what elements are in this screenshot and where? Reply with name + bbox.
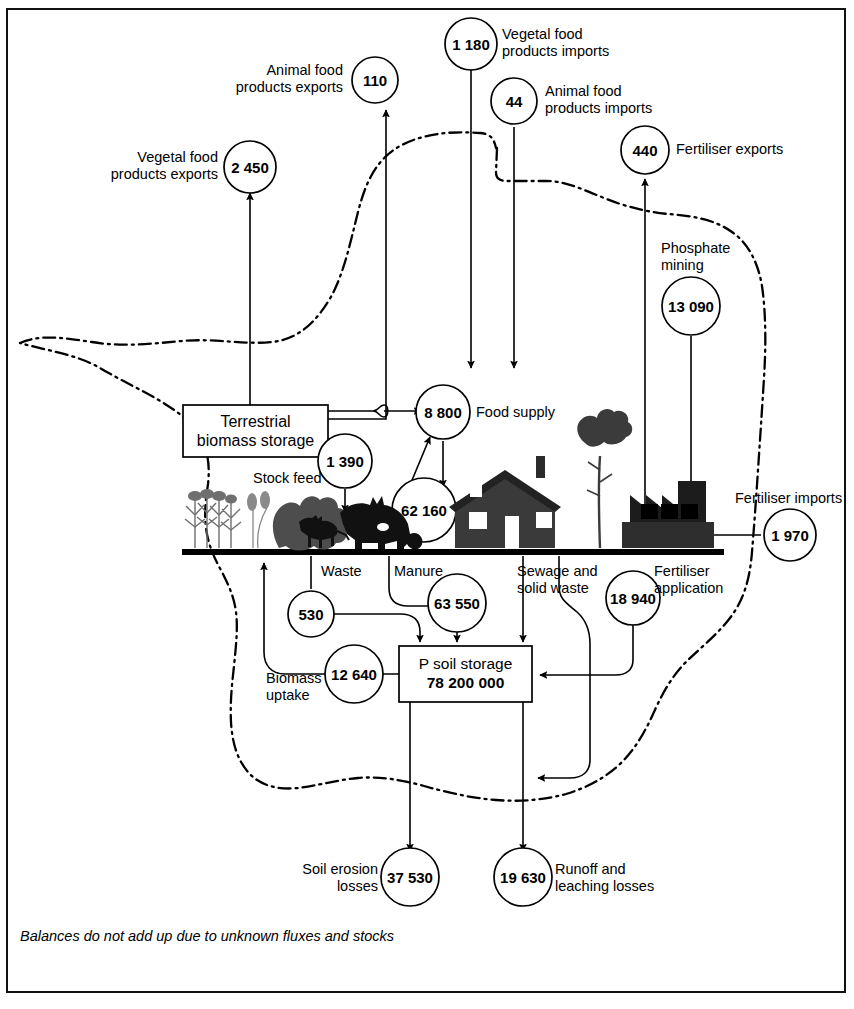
figure-footnote: Balances do not add up due to unknown fl…	[20, 928, 394, 944]
label-stock-feed: Stock feed	[253, 470, 353, 487]
value-manure: 63 550	[434, 595, 480, 612]
p-soil-storage-value: 78 200 000	[427, 674, 505, 691]
label-biomass-uptake: Biomass uptake	[266, 670, 352, 703]
value-fertiliser-imports: 1 970	[771, 527, 809, 544]
value-food-supply: 8 800	[424, 404, 462, 421]
flow-line-animal-exports	[328, 110, 386, 419]
factory-illustration	[622, 481, 714, 548]
value-animal-food-products-exports: 110	[363, 72, 387, 89]
value-stock-feed: 1 390	[326, 453, 364, 470]
label-manure: Manure	[394, 563, 474, 580]
label-vegetal-food-products-exports: Vegetal food products exports	[100, 149, 218, 182]
value-grazing: 62 160	[401, 502, 447, 519]
label-animal-food-products-imports: Animal food products imports	[545, 83, 705, 116]
label-food-supply: Food supply	[476, 404, 596, 421]
ground-line	[182, 549, 724, 555]
value-animal-food-products-imports: 44	[506, 93, 523, 110]
label-vegetal-food-products-imports: Vegetal food products imports	[502, 26, 662, 59]
value-runoff-and-leaching-losses: 19 630	[500, 869, 546, 886]
value-vegetal-food-products-exports: 2 450	[231, 159, 269, 176]
value-waste: 530	[298, 606, 323, 623]
label-fertiliser-imports: Fertiliser imports	[735, 490, 854, 507]
value-vegetal-food-products-imports: 1 180	[452, 36, 490, 53]
terrestrial-biomass-storage-label: Terrestrial biomass storage	[183, 412, 328, 450]
label-soil-erosion-losses: Soil erosion losses	[278, 861, 378, 894]
label-phosphate-mining: Phosphate mining	[661, 240, 781, 273]
label-fertiliser-application: Fertiliser application	[654, 563, 744, 596]
value-soil-erosion-losses: 37 530	[387, 869, 433, 886]
label-sewage-and-solid-waste: Sewage and solid waste	[517, 563, 627, 596]
flow-line-biomass-to-food-supply	[328, 405, 388, 417]
flow-line-return-loop	[538, 672, 590, 778]
p-soil-storage-label: P soil storage 78 200 000	[399, 654, 532, 692]
figure-page: 2 450 110 1 180 44 440 13 090 1 970 8 80…	[0, 0, 854, 1009]
country-border-outline	[20, 132, 765, 800]
house-illustration	[449, 456, 561, 548]
label-waste: Waste	[321, 563, 391, 580]
flow-line-fertiliser-app-circle-down	[540, 622, 633, 675]
label-animal-food-products-exports: Animal food products exports	[225, 62, 343, 95]
flow-line-waste-to-soil	[333, 614, 420, 642]
label-fertiliser-exports: Fertiliser exports	[676, 141, 846, 158]
value-fertiliser-exports: 440	[632, 142, 657, 159]
value-phosphate-mining: 13 090	[668, 298, 714, 315]
label-runoff-and-leaching-losses: Runoff and leaching losses	[555, 861, 685, 894]
p-soil-storage-title: P soil storage	[419, 655, 513, 672]
